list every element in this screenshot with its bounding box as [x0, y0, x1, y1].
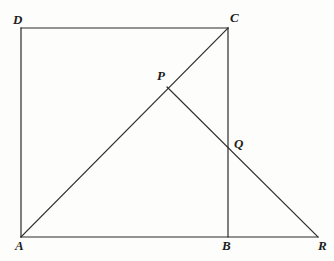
vertex-label-A: A	[15, 239, 24, 252]
vertex-label-P: P	[157, 69, 165, 82]
geometry-figure: D C P Q A B R	[0, 0, 334, 261]
vertex-label-Q: Q	[234, 137, 243, 150]
vertex-label-B: B	[222, 239, 231, 252]
geometry-canvas	[0, 0, 334, 261]
vertex-label-R: R	[318, 239, 327, 252]
vertex-label-C: C	[230, 11, 239, 24]
segment-AC-diagonal	[21, 28, 228, 237]
segment-PR	[167, 87, 318, 237]
vertex-label-D: D	[13, 13, 22, 26]
